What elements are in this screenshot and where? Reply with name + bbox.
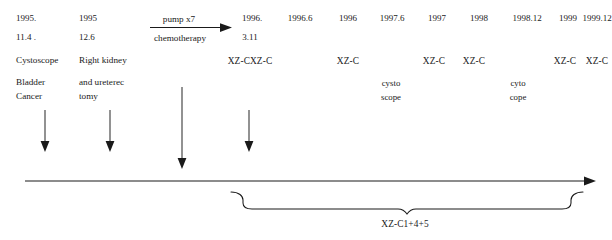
event-arrow-chemotherapy-pump	[178, 87, 187, 169]
event-arrow-cystoscope-1995	[41, 110, 50, 152]
xzc-treatment-brace	[231, 192, 583, 214]
diagram-vector-layer	[0, 0, 612, 240]
timeline-diagram: 1995. 11.4 . Cystoscope Bladder Cancer 1…	[0, 0, 612, 240]
event-arrow-xzc-start-1996	[245, 110, 254, 152]
chemotherapy-arrow	[150, 23, 232, 32]
event-arrow-nephroureterectomy-1995	[106, 110, 115, 152]
timeline-axis	[25, 177, 596, 186]
